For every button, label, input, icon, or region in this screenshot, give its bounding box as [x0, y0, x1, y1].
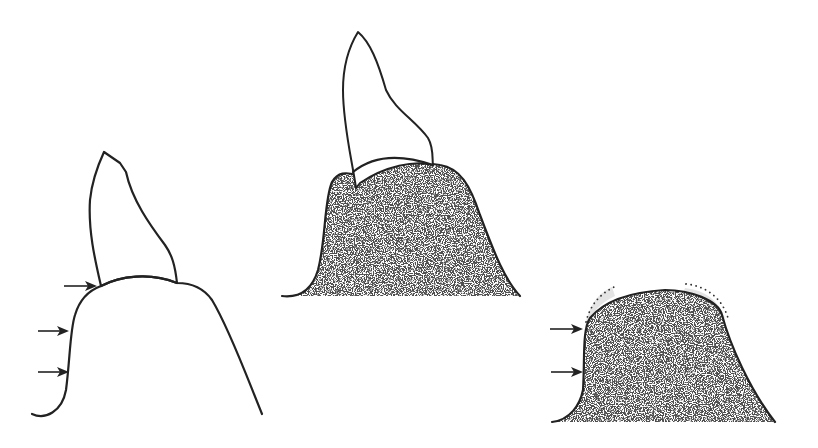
arrow-icon — [550, 324, 583, 334]
panel-left-tooth-outline — [32, 152, 262, 416]
tooth-cervical-line-left — [101, 276, 177, 286]
arrow-icon — [38, 326, 69, 336]
diagram-canvas — [0, 0, 818, 448]
ridge-outline-left — [32, 276, 262, 416]
arrow-icon — [38, 367, 69, 377]
panel-right-ridge-grafted — [545, 284, 780, 430]
panel-middle-tooth-grafted — [270, 32, 540, 310]
stippled-tissue-right — [545, 285, 780, 430]
tooth-crown-left — [90, 152, 177, 286]
arrow-icon — [551, 367, 583, 377]
